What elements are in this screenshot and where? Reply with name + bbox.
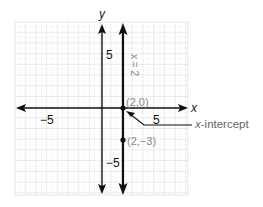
graph-figure: y x −5 5 5 −5 x = 2 (2,0) (2,−3) x-inter… <box>0 0 263 207</box>
x-intercept-label: x-intercept <box>195 119 249 131</box>
y-axis-label: y <box>99 8 105 20</box>
point-2-0 <box>120 105 125 110</box>
point-label-2-0: (2,0) <box>126 97 149 108</box>
y-tick-neg5: −5 <box>106 157 120 169</box>
line-equation-label: x = 2 <box>129 54 139 76</box>
callout-text: -intercept <box>201 118 249 130</box>
x-tick-neg5: −5 <box>40 114 54 126</box>
x-tick-pos5: 5 <box>153 114 160 126</box>
x-axis-label: x <box>191 102 197 114</box>
point-2-neg3 <box>120 137 125 142</box>
point-label-2-neg3: (2,−3) <box>127 136 156 147</box>
y-tick-pos5: 5 <box>106 49 113 61</box>
